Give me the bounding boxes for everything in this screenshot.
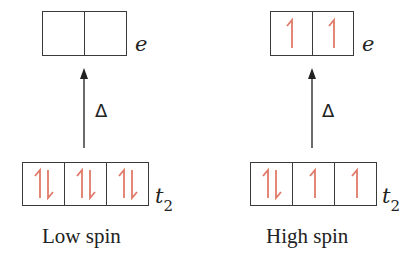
t-subscript: 2: [163, 197, 173, 215]
orbital-box-paired: [107, 163, 148, 205]
orbital-box-single: [271, 12, 313, 55]
e-level-label: e: [135, 34, 147, 55]
high-spin-e-level: [270, 11, 354, 56]
orbital-box-single: [335, 163, 376, 205]
delta-label: Δ: [322, 102, 334, 120]
high-spin-t2-level: [250, 162, 377, 206]
electron-pair-icon: [115, 167, 141, 201]
orbital-box-paired: [23, 163, 65, 205]
electron-up-icon: [349, 167, 363, 201]
low-spin-e-level: [42, 11, 127, 56]
t2-level-label: t2: [155, 186, 173, 211]
orbital-diagram: e Δ: [0, 0, 418, 269]
electron-pair-icon: [259, 167, 285, 201]
energy-arrow-icon: [306, 66, 318, 150]
electron-up-icon: [326, 17, 340, 51]
delta-label: Δ: [95, 102, 107, 120]
electron-up-icon: [284, 17, 298, 51]
orbital-box: [85, 12, 126, 55]
t2-level-label: t2: [382, 186, 400, 211]
electron-pair-icon: [31, 167, 57, 201]
orbital-box-single: [293, 163, 335, 205]
orbital-box-paired: [251, 163, 293, 205]
orbital-box: [43, 12, 85, 55]
e-level-label: e: [362, 34, 374, 55]
high-spin-caption: High spin: [266, 226, 348, 247]
low-spin-caption: Low spin: [42, 226, 121, 247]
electron-pair-icon: [73, 167, 99, 201]
electron-up-icon: [307, 167, 321, 201]
orbital-box-paired: [65, 163, 107, 205]
energy-arrow-icon: [78, 66, 90, 150]
low-spin-t2-level: [22, 162, 149, 206]
orbital-box-single: [313, 12, 354, 55]
t-subscript: 2: [390, 197, 400, 215]
